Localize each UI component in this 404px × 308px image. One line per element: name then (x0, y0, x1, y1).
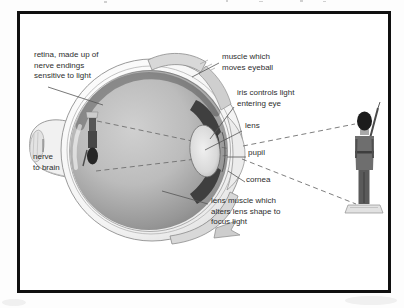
light-rays-outside (242, 124, 356, 204)
toy-soldier-figure (345, 102, 383, 213)
label-pupil: pupil (248, 148, 265, 159)
page: { "figure": { "title_hint": "cross-secti… (0, 0, 404, 308)
label-muscle: muscle which moves eyeball (222, 52, 273, 73)
soldier-base (345, 205, 383, 213)
label-lens-muscle: lens muscle which alters lens shape to f… (211, 196, 280, 228)
label-cornea: cornea (246, 175, 270, 186)
label-nerve: nerve to brain (33, 152, 60, 173)
eye-diagram-art (0, 0, 404, 308)
label-iris: iris controls light entering eye (237, 88, 294, 109)
label-lens: lens (245, 121, 260, 132)
label-retina: retina, made up of nerve endings sensiti… (34, 50, 98, 82)
bearskin-hat (357, 112, 372, 131)
